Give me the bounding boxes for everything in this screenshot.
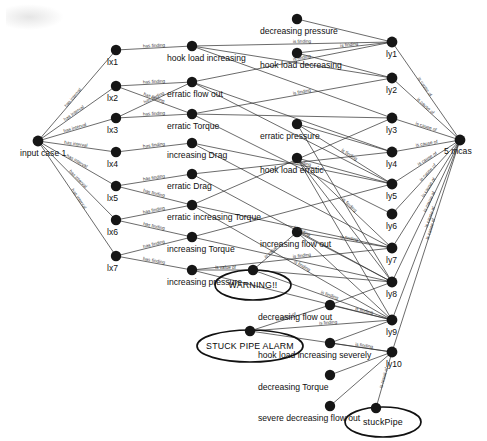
node-ly8[interactable] [387,277,398,288]
node-label-ly10: ly10 [386,359,402,369]
node-lx4[interactable] [111,147,121,157]
node-input-case[interactable] [33,136,44,147]
node-label-ly4: ly4 [386,159,397,169]
node-ly4[interactable] [387,147,398,158]
node-label-f3: erratic Torque [167,121,220,131]
network-graph: WARNING!!STUCK PIPE ALARMstuckPipe input… [0,0,487,441]
node-lx7[interactable] [111,251,121,261]
edge-label: is cause of [416,97,436,116]
edge-label: has finding [143,256,166,265]
node-b2[interactable] [325,338,335,348]
node-ly1[interactable] [387,37,398,48]
graph-edge [192,114,392,214]
node-label-f7: increasing Torque [167,244,235,254]
node-ly10[interactable] [387,347,398,358]
node-label-lx2: lx2 [107,93,118,103]
node-label-lx3: lx3 [107,125,118,135]
node-ly6[interactable] [387,209,398,220]
edge-label: has interval [70,188,87,210]
node-ly7[interactable] [387,243,398,254]
edge-label: is finding [293,259,312,273]
edge-label: is cause of [415,139,438,148]
edge-label: has finding [143,205,166,214]
node-label-g1: decreasing pressure [260,26,338,36]
node-label-5-mcas: 5 mcas [444,146,472,156]
node-label-ly2: ly2 [386,85,397,95]
edge-label: has finding [143,188,166,198]
node-label-ly1: ly1 [386,49,397,59]
node-label-ly6: ly6 [386,221,397,231]
edge-label: has interval [68,169,88,189]
node-ly2[interactable] [387,73,398,84]
edge-label: is value of [215,265,236,270]
node-ly3[interactable] [387,113,398,124]
diagram-canvas: WARNING!!STUCK PIPE ALARMstuckPipe input… [0,0,487,441]
edge-label: is finding [340,41,359,48]
node-5-mcas[interactable] [455,135,466,146]
node-label-f4: increasing Drag [167,150,227,160]
node-lx5[interactable] [111,181,121,191]
node-label-f8: increasing pressure [167,277,242,287]
node-f2[interactable] [187,77,197,87]
ellipse-node-label: stuckPipe [363,417,403,427]
graph-edge [192,114,392,118]
edge-label: is cause of [415,121,438,133]
edge-label: is finding [293,252,312,259]
node-label-ly5: ly5 [386,191,397,201]
node-label-lx7: lx7 [107,263,118,273]
edge-label: has finding [143,173,166,181]
edge-label: has interval [64,140,88,148]
node-stuck-pipe[interactable] [371,403,381,413]
node-lx3[interactable] [111,113,121,123]
edge-label: has finding [143,239,166,249]
node-label-f6: erratic increasing Torque [167,212,261,222]
node-labels-layer: input case 1lx1lx2lx3lx4lx5lx6lx7hook lo… [20,26,472,423]
graph-edge [392,140,460,320]
node-f6[interactable] [187,200,197,210]
node-label-input-case: input case 1 [20,148,67,158]
node-label-b4: severe decreasing flow out [258,413,361,423]
edge-label: is finding [340,148,358,162]
node-stuck-pipe-alarm[interactable] [245,326,255,336]
node-ly5[interactable] [387,179,398,190]
node-f8[interactable] [187,265,197,275]
node-ly9[interactable] [387,315,398,326]
node-label-g4: hook load erratic [260,165,324,175]
edge-label: is cause of [417,76,434,97]
node-label-b2: hook load increasing severely [258,350,372,360]
node-label-ly7: ly7 [386,255,397,265]
node-label-f2: erratic flow out [167,89,223,99]
node-label-g3: erratic pressure [260,131,320,141]
node-label-f1: hook load increasing [167,53,246,63]
node-f3[interactable] [187,109,197,119]
node-f7[interactable] [187,232,197,242]
edge-label: has interval [66,153,89,169]
node-b4[interactable] [325,401,335,411]
node-g3[interactable] [292,119,302,129]
node-f1[interactable] [187,41,197,51]
edge-label: is result of [378,366,389,388]
edge-label: is finding [320,290,339,301]
node-lx1[interactable] [111,45,121,55]
node-label-lx1: lx1 [107,57,118,67]
node-warning[interactable] [248,265,258,275]
edge-label: has interval [63,122,87,133]
node-b1[interactable] [325,300,335,310]
node-g1[interactable] [292,14,302,24]
node-label-lx6: lx6 [107,227,118,237]
node-f4[interactable] [187,138,197,148]
node-b3[interactable] [325,370,335,380]
node-label-ly8: ly8 [386,289,397,299]
node-label-b3: decreasing Torque [258,382,329,392]
node-label-ly3: ly3 [386,125,397,135]
edge-label: has finding [143,221,166,231]
edge-label: is finding [293,39,312,44]
graph-edge [330,282,392,305]
node-f5[interactable] [187,169,197,179]
node-lx6[interactable] [111,215,121,225]
node-label-g2: hook load decreasing [260,60,342,70]
node-lx2[interactable] [111,81,121,91]
node-label-lx5: lx5 [107,193,118,203]
node-label-ly9: ly9 [386,327,397,337]
node-label-f5: erratic Drag [167,181,212,191]
